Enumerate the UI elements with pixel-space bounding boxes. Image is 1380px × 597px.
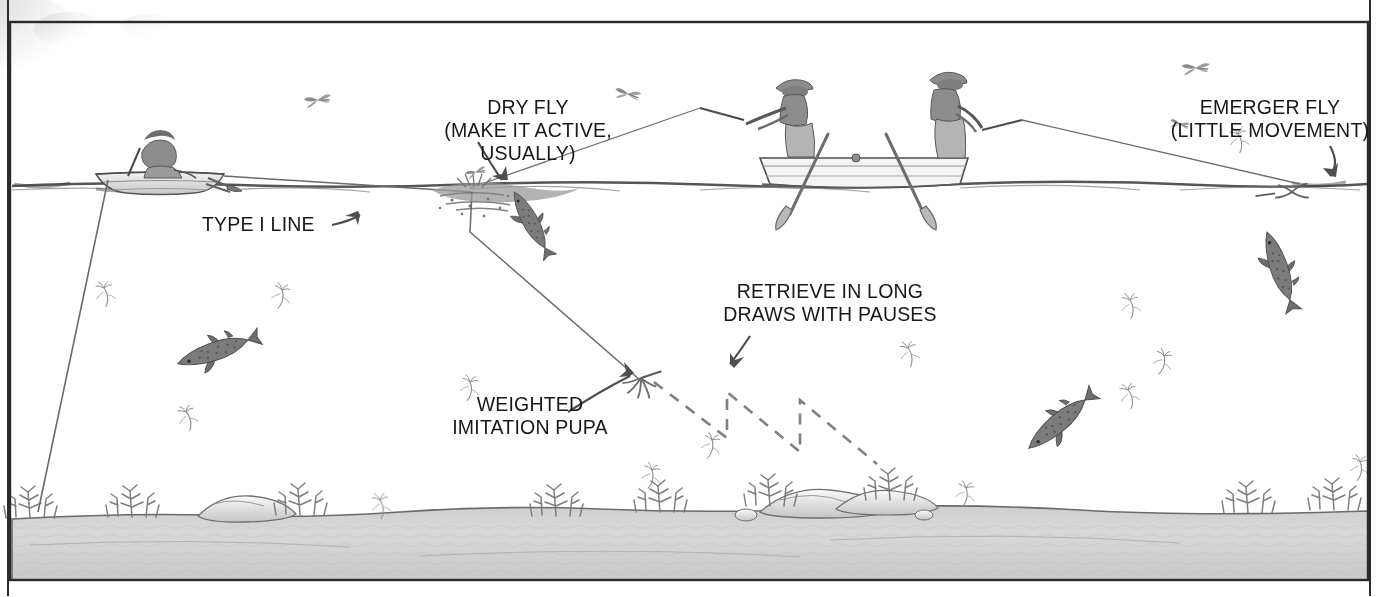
label-dry-fly: DRY FLY (MAKE IT ACTIVE, USUALLY) — [398, 96, 658, 165]
label-weighted-imitation-pupa: WEIGHTED IMITATION PUPA — [420, 393, 640, 439]
fly-fishing-illustration: DRY FLY (MAKE IT ACTIVE, USUALLY) EMERGE… — [0, 0, 1380, 597]
label-type-i-line: TYPE I LINE — [202, 213, 362, 236]
illustration-canvas — [0, 0, 1380, 597]
label-retrieve: RETRIEVE IN LONG DRAWS WITH PAUSES — [700, 280, 960, 326]
label-emerger-fly: EMERGER FLY (LITTLE MOVEMENT) — [1150, 96, 1380, 142]
